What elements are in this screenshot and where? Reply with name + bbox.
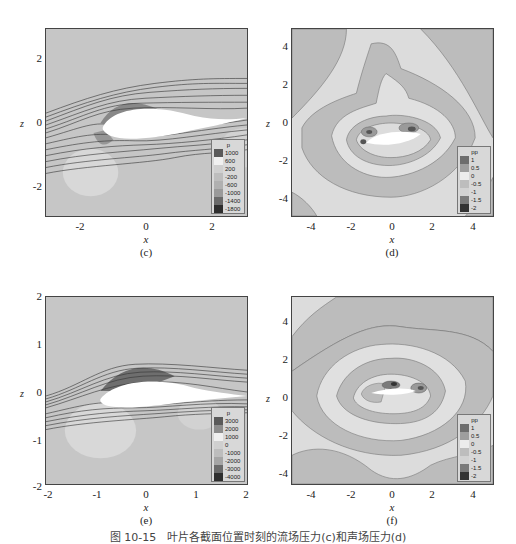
panel-d: pp 1 0.5 0 -0.5 -1 -1.5 -2 4 2 0 -2 -4 z… bbox=[246, 0, 504, 262]
colorbar-d: pp 1 0.5 0 -0.5 -1 -1.5 -2 bbox=[457, 146, 491, 214]
x-axis-label: x bbox=[136, 233, 156, 245]
figure-caption: 图 10-15 叶片各截面位置时刻的流场压力(c)和声场压力(d) bbox=[0, 528, 516, 544]
colorbar-level: 0 bbox=[471, 441, 474, 447]
x-tick: -2 bbox=[68, 220, 92, 232]
plot-area-f: pp 1 0.5 0 -0.5 -1 -1.5 -2 bbox=[291, 296, 494, 485]
panel-label: (c) bbox=[131, 246, 161, 258]
panel-label: (d) bbox=[377, 246, 407, 258]
panel-label: (f) bbox=[377, 514, 407, 526]
x-tick: 2 bbox=[420, 220, 444, 232]
colorbar-level: 2000 bbox=[225, 426, 238, 432]
panel-label: (e) bbox=[131, 514, 161, 526]
y-tick: 2 bbox=[268, 78, 288, 90]
colorbar-f: pp 1 0.5 0 -0.5 -1 -1.5 -2 bbox=[457, 414, 491, 482]
y-tick: 4 bbox=[268, 315, 288, 327]
colorbar-level: 600 bbox=[225, 158, 235, 164]
colorbar-title: pp bbox=[460, 149, 489, 155]
colorbar-level: 0.5 bbox=[471, 433, 479, 439]
colorbar-level: 1 bbox=[471, 157, 474, 163]
panel-e: p 3000 2000 1000 0 -1000 -2000 -3000 -40… bbox=[0, 268, 258, 530]
colorbar-level: -3000 bbox=[225, 466, 240, 472]
y-tick: -2 bbox=[22, 180, 42, 192]
colorbar-level: -2 bbox=[471, 205, 476, 211]
colorbar-level: 200 bbox=[225, 166, 235, 172]
colorbar-level: 1000 bbox=[225, 150, 238, 156]
plot-area-d: pp 1 0.5 0 -0.5 -1 -1.5 -2 bbox=[291, 28, 494, 217]
colorbar-level: -1000 bbox=[225, 450, 240, 456]
y-axis-label: z bbox=[20, 118, 24, 129]
colorbar-level: 3000 bbox=[225, 418, 238, 424]
x-axis-label: x bbox=[382, 233, 402, 245]
colorbar-level: -1 bbox=[471, 457, 476, 463]
y-tick: -1 bbox=[22, 434, 42, 446]
panel-f: pp 1 0.5 0 -0.5 -1 -1.5 -2 4 2 0 -2 -4 z… bbox=[246, 268, 504, 530]
colorbar-level: -1800 bbox=[225, 206, 240, 212]
colorbar-level: -1000 bbox=[225, 190, 240, 196]
y-tick: -4 bbox=[268, 192, 288, 204]
colorbar-level: 0 bbox=[225, 442, 228, 448]
x-tick: 2 bbox=[420, 488, 444, 500]
x-tick: 0 bbox=[380, 220, 404, 232]
colorbar-level: 1 bbox=[471, 425, 474, 431]
x-tick: -2 bbox=[339, 488, 363, 500]
x-tick: -2 bbox=[36, 488, 60, 500]
x-axis-label: x bbox=[136, 501, 156, 513]
x-tick: 0 bbox=[134, 488, 158, 500]
y-tick: 2 bbox=[268, 353, 288, 365]
colorbar-title: pp bbox=[460, 417, 489, 423]
x-tick: 2 bbox=[200, 220, 224, 232]
x-tick: 0 bbox=[380, 488, 404, 500]
x-tick: 4 bbox=[461, 488, 485, 500]
colorbar-level: -600 bbox=[225, 182, 237, 188]
x-tick: -4 bbox=[299, 220, 323, 232]
colorbar-level: 0 bbox=[471, 173, 474, 179]
y-tick: 0 bbox=[268, 116, 288, 128]
y-axis-label: z bbox=[20, 388, 24, 399]
x-tick: 1 bbox=[184, 488, 208, 500]
colorbar-level: -0.5 bbox=[471, 181, 481, 187]
colorbar-level: -200 bbox=[225, 174, 237, 180]
colorbar-e: p 3000 2000 1000 0 -1000 -2000 -3000 -40… bbox=[211, 407, 245, 482]
x-tick: 0 bbox=[134, 220, 158, 232]
y-tick: 1 bbox=[22, 338, 42, 350]
x-axis-label: x bbox=[382, 501, 402, 513]
colorbar-level: -1 bbox=[471, 189, 476, 195]
x-tick: 4 bbox=[461, 220, 485, 232]
colorbar-c: p 1000 600 200 -200 -600 -1000 -1400 -18… bbox=[211, 139, 245, 214]
x-tick: -2 bbox=[339, 220, 363, 232]
plot-area-e: p 3000 2000 1000 0 -1000 -2000 -3000 -40… bbox=[45, 296, 248, 485]
x-tick: -4 bbox=[299, 488, 323, 500]
y-tick: 0 bbox=[22, 386, 42, 398]
panel-c: p 1000 600 200 -200 -600 -1000 -1400 -18… bbox=[0, 0, 258, 262]
y-tick: 4 bbox=[268, 40, 288, 52]
colorbar-level: 1000 bbox=[225, 434, 238, 440]
x-tick: -1 bbox=[85, 488, 109, 500]
colorbar-level: 0.5 bbox=[471, 165, 479, 171]
y-axis-label: z bbox=[266, 393, 270, 404]
y-tick: 0 bbox=[22, 116, 42, 128]
colorbar-level: -1400 bbox=[225, 198, 240, 204]
y-tick: 2 bbox=[22, 290, 42, 302]
colorbar-level: -4000 bbox=[225, 474, 240, 480]
y-tick: 2 bbox=[22, 52, 42, 64]
colorbar-level: -2000 bbox=[225, 458, 240, 464]
colorbar-level: -1.5 bbox=[471, 197, 481, 203]
plot-area-c: p 1000 600 200 -200 -600 -1000 -1400 -18… bbox=[45, 28, 248, 217]
y-tick: -2 bbox=[268, 429, 288, 441]
y-tick: 0 bbox=[268, 391, 288, 403]
colorbar-level: -1.5 bbox=[471, 465, 481, 471]
colorbar-title: p bbox=[214, 410, 243, 416]
y-tick: -2 bbox=[268, 154, 288, 166]
y-tick: -4 bbox=[268, 467, 288, 479]
colorbar-level: -2 bbox=[471, 473, 476, 479]
colorbar-level: -0.5 bbox=[471, 449, 481, 455]
colorbar-title: p bbox=[214, 142, 243, 148]
y-axis-label: z bbox=[266, 118, 270, 129]
